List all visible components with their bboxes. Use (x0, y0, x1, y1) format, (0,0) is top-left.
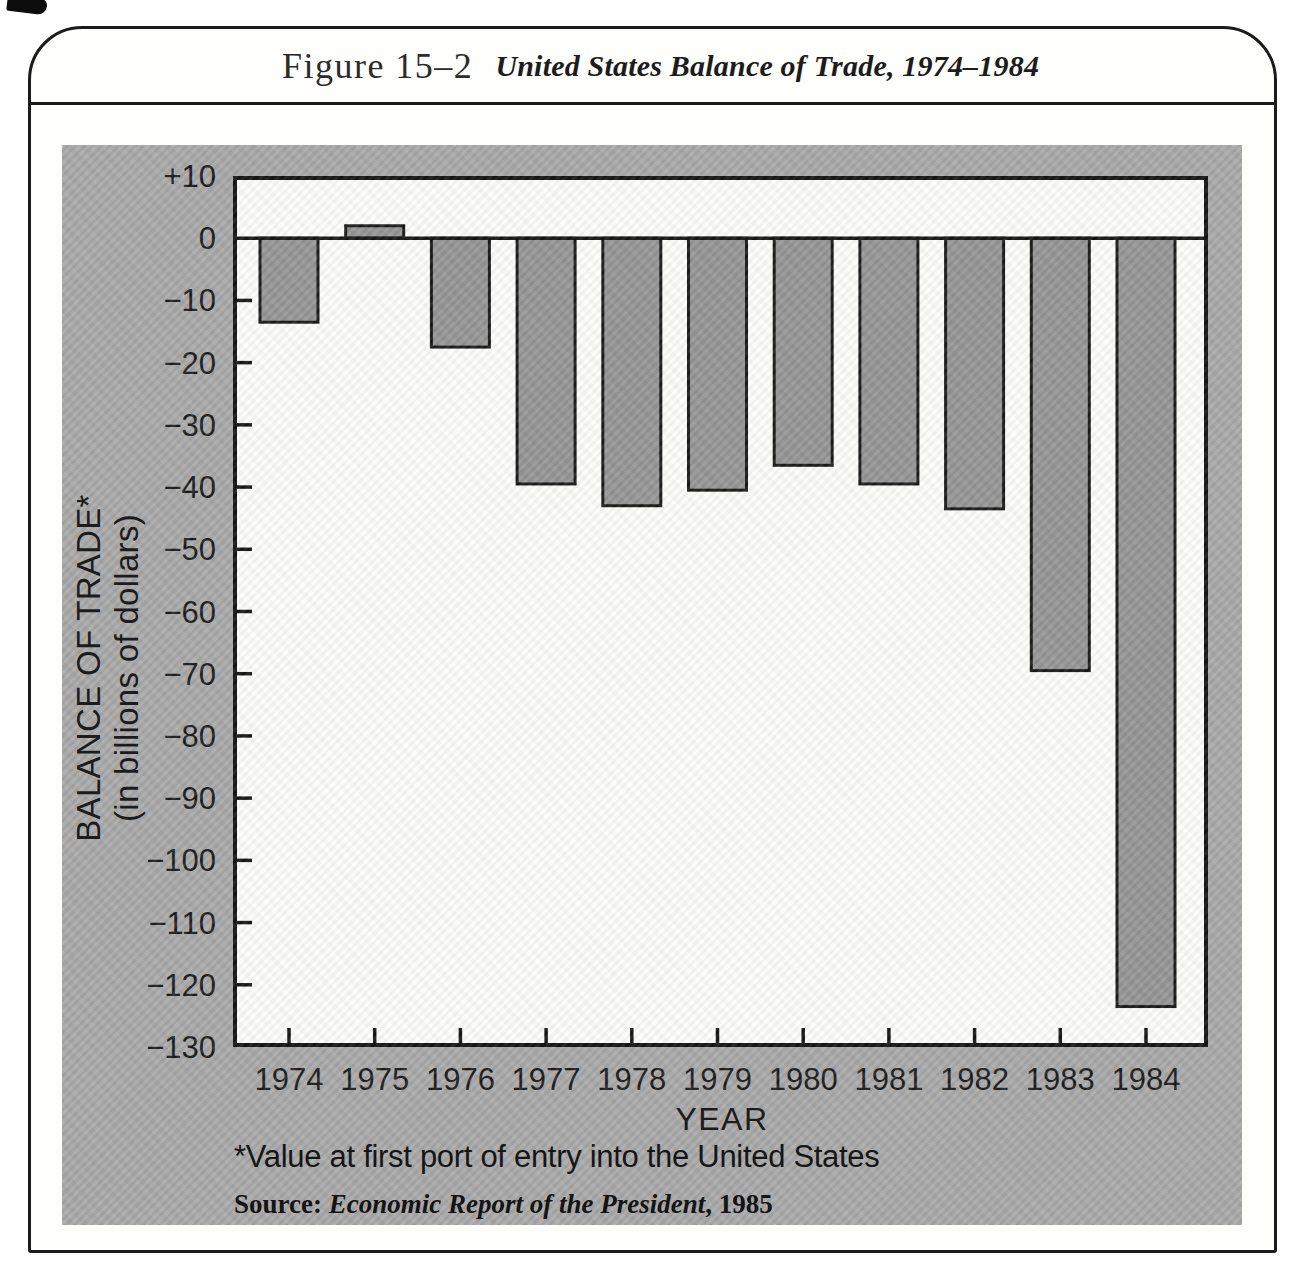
bar-1978 (603, 238, 661, 506)
x-tick-label-1976: 1976 (426, 1062, 495, 1097)
y-tick-label--130: −130 (146, 1030, 216, 1065)
x-tick-label-1980: 1980 (769, 1062, 838, 1097)
figure-frame: Figure 15–2 United States Balance of Tra… (28, 26, 1277, 1253)
bar-1974 (260, 238, 318, 322)
footnote: *Value at first port of entry into the U… (234, 1139, 880, 1175)
bar-1984 (1117, 238, 1175, 1006)
y-tick-label--30: −30 (163, 408, 216, 443)
x-tick-label-1983: 1983 (1026, 1062, 1095, 1097)
y-tick-label--10: −10 (163, 283, 216, 318)
y-axis-title: BALANCE OF TRADE* (in billions of dollar… (70, 494, 146, 841)
figure-title: United States Balance of Trade, 1974–198… (495, 49, 1039, 83)
bar-1976 (431, 238, 489, 347)
y-tick-label--40: −40 (163, 470, 216, 505)
x-tick-label-1981: 1981 (854, 1062, 923, 1097)
bar-1980 (774, 238, 832, 465)
y-tick-label--90: −90 (163, 781, 216, 816)
scanned-textbook-page: { "figure": { "label": "Figure 15–2", "t… (0, 0, 1304, 1287)
y-tick-label--70: −70 (163, 657, 216, 692)
figure-number: Figure 15–2 (282, 45, 474, 87)
bar-1977 (517, 238, 575, 484)
bar-1975 (346, 226, 404, 238)
y-tick-label--120: −120 (146, 968, 216, 1003)
x-tick-label-1974: 1974 (255, 1062, 324, 1097)
balance-of-trade-bar-chart: +100−10−20−30−40−50−60−70−80−90−100−110−… (62, 145, 1242, 1225)
y-tick-label--80: −80 (163, 719, 216, 754)
source-suffix: , 1985 (705, 1189, 773, 1219)
y-axis-title-line1: BALANCE OF TRADE* (70, 494, 108, 841)
y-tick-label--100: −100 (146, 843, 216, 878)
scan-smudge-artifact (6, 0, 48, 15)
bar-1981 (860, 238, 918, 484)
x-tick-label-1984: 1984 (1112, 1062, 1181, 1097)
y-tick-label--60: −60 (163, 595, 216, 630)
y-axis-title-line2: (in billions of dollars) (108, 494, 146, 841)
source-work: Economic Report of the President (329, 1189, 705, 1219)
caption-divider (31, 102, 1274, 105)
y-tick-label-0: 0 (199, 221, 216, 256)
y-tick-label-10: +10 (163, 159, 216, 194)
x-tick-label-1978: 1978 (597, 1062, 666, 1097)
bar-1983 (1031, 238, 1089, 670)
y-tick-label--20: −20 (163, 346, 216, 381)
y-tick-label--110: −110 (148, 906, 216, 941)
x-axis-title: YEAR (675, 1101, 768, 1138)
bar-1982 (946, 238, 1004, 509)
x-tick-label-1975: 1975 (340, 1062, 409, 1097)
y-tick-label--50: −50 (163, 532, 216, 567)
chart-panel: +100−10−20−30−40−50−60−70−80−90−100−110−… (62, 145, 1242, 1225)
bar-1979 (689, 238, 747, 490)
source-line: Source: Economic Report of the President… (234, 1189, 773, 1220)
source-prefix: Source: (234, 1189, 329, 1219)
figure-caption: Figure 15–2 United States Balance of Tra… (31, 29, 1274, 102)
x-tick-label-1977: 1977 (512, 1062, 581, 1097)
x-tick-label-1982: 1982 (940, 1062, 1009, 1097)
x-tick-label-1979: 1979 (683, 1062, 752, 1097)
